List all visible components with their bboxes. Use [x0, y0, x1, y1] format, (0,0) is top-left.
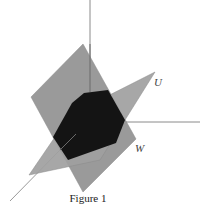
figure-caption: Figure 1 — [0, 193, 176, 204]
plane-u-label: U — [154, 77, 162, 88]
planes-diagram — [0, 0, 202, 209]
plane-w-label: W — [135, 143, 144, 154]
